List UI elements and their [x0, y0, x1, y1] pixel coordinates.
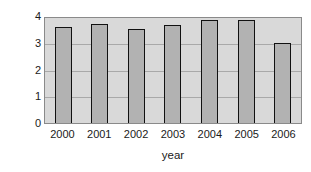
x-axis-title: year	[44, 148, 302, 162]
bar	[164, 25, 181, 123]
x-axis-tick-labels: 2000200120022003200420052006	[44, 127, 302, 141]
bar	[128, 29, 145, 123]
bar-chart-figure: trillions of yen 01234 20002001200220032…	[0, 0, 311, 172]
bar	[55, 27, 72, 123]
plot-area	[44, 17, 302, 124]
x-tick-label: 2001	[81, 127, 117, 141]
bar	[274, 43, 291, 123]
bar-slot	[228, 18, 264, 123]
x-tick-label: 2003	[155, 127, 191, 141]
bar-slot	[45, 18, 81, 123]
y-axis-tick-labels: 01234	[26, 17, 41, 124]
bar-slot	[118, 18, 154, 123]
y-tick-label: 3	[26, 38, 41, 49]
x-tick-label: 2002	[118, 127, 154, 141]
bar-slot	[265, 18, 301, 123]
y-tick-label: 4	[26, 11, 41, 22]
bar-slot	[82, 18, 118, 123]
x-tick-label: 2005	[229, 127, 265, 141]
bar	[238, 20, 255, 123]
y-tick-label: 1	[26, 91, 41, 102]
bar-slot	[192, 18, 228, 123]
x-tick-label: 2006	[265, 127, 301, 141]
y-tick-label: 2	[26, 65, 41, 76]
x-tick-label: 2000	[44, 127, 80, 141]
bar-series	[45, 18, 301, 123]
bar-slot	[155, 18, 191, 123]
x-tick-label: 2004	[192, 127, 228, 141]
y-tick-label: 0	[26, 118, 41, 129]
bar	[201, 20, 218, 123]
bar	[91, 24, 108, 123]
